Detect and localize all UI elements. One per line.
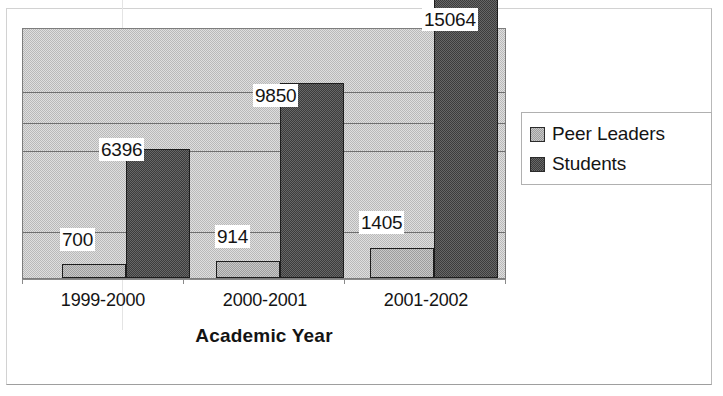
x-axis-label-1999-2000: 1999-2000 <box>33 289 173 311</box>
data-label-students-1999-2000: 6396 <box>99 138 144 161</box>
data-label-students-2000-2001: 9850 <box>253 84 298 107</box>
x-axis-tick-0 <box>22 279 23 284</box>
data-label-students-2001-2002: 15064 <box>422 8 478 31</box>
bar-students-2000-2001[interactable] <box>280 83 344 278</box>
x-axis-label-2000-2001: 2000-2001 <box>195 289 335 311</box>
x-axis-title: Academic Year <box>22 325 506 347</box>
chart-legend: Peer Leaders Students <box>521 112 712 185</box>
gridline-8000 <box>23 123 505 124</box>
x-axis-label-2001-2002: 2001-2002 <box>356 289 496 311</box>
gridline-low <box>23 232 505 233</box>
legend-item-peer-leaders[interactable]: Peer Leaders <box>530 119 711 149</box>
x-axis-tick-3 <box>505 279 506 284</box>
legend-label-peer-leaders: Peer Leaders <box>552 123 665 145</box>
chart-figure: 700 6396 914 9850 1405 15064 1999-2000 2… <box>0 0 723 396</box>
bar-students-1999-2000[interactable] <box>126 149 190 278</box>
legend-item-students[interactable]: Students <box>530 149 711 179</box>
x-axis-line <box>22 279 506 280</box>
data-label-peer-leaders-2001-2002: 1405 <box>359 211 404 234</box>
legend-label-students: Students <box>552 153 626 175</box>
bar-peer-leaders-2000-2001[interactable] <box>216 261 280 278</box>
bar-peer-leaders-1999-2000[interactable] <box>62 264 126 278</box>
bar-students-2001-2002[interactable] <box>434 0 498 278</box>
data-label-peer-leaders-2000-2001: 914 <box>215 225 250 248</box>
peer-leaders-swatch-icon <box>530 127 545 142</box>
data-label-peer-leaders-1999-2000: 700 <box>60 228 95 251</box>
students-swatch-icon <box>530 157 545 172</box>
x-axis-tick-1 <box>183 279 184 284</box>
bar-peer-leaders-2001-2002[interactable] <box>370 248 434 278</box>
x-axis-tick-2 <box>344 279 345 284</box>
gridline-4000 <box>23 151 505 152</box>
